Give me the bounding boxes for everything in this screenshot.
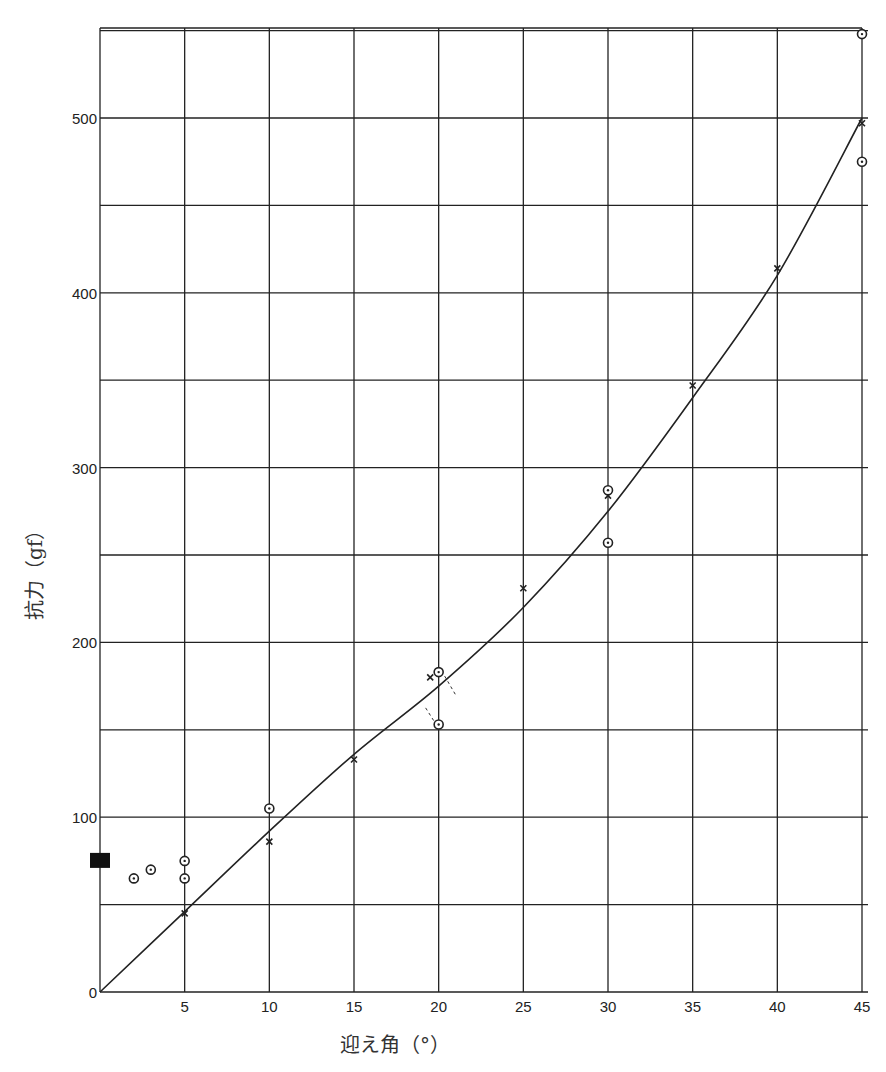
y-tick-label: 300 <box>72 460 97 477</box>
x-tick-label: 30 <box>600 998 617 1015</box>
x-tick-label: 35 <box>684 998 701 1015</box>
circle-marker-dot <box>437 671 439 673</box>
circle-marker-dot <box>268 807 270 809</box>
y-tick-label: 200 <box>72 634 97 651</box>
grid <box>100 28 868 992</box>
x-tick-label: 5 <box>180 998 188 1015</box>
circle-marker-dot <box>437 723 439 725</box>
x-tick-label: 45 <box>854 998 871 1015</box>
x-tick-label: 20 <box>430 998 447 1015</box>
circle-marker-dot <box>861 161 863 163</box>
x-tick-labels: 51015202530354045 <box>180 998 870 1015</box>
circle-marker-dot <box>607 489 609 491</box>
y-tick-label: 100 <box>72 809 97 826</box>
y-axis-label: 抗力（gf） <box>23 520 47 620</box>
circle-marker-dot <box>133 877 135 879</box>
circle-marker-dot <box>183 860 185 862</box>
circle-marker-dot <box>183 877 185 879</box>
x-marker <box>427 674 433 680</box>
y-tick-label: 500 <box>72 110 97 127</box>
circle-marker-dot <box>861 33 863 35</box>
x-tick-label: 40 <box>769 998 786 1015</box>
data-markers <box>90 30 867 917</box>
y-tick-label: 400 <box>72 285 97 302</box>
dashed-connector <box>425 707 434 720</box>
x-tick-label: 10 <box>261 998 278 1015</box>
circle-marker-dot <box>150 868 152 870</box>
filled-square-marker <box>90 853 110 868</box>
drag-vs-angle-chart: 51015202530354045 0100200300400500 迎え角（°… <box>0 0 886 1072</box>
x-tick-label: 25 <box>515 998 532 1015</box>
y-tick-label: 0 <box>89 984 97 1001</box>
circle-marker-dot <box>607 542 609 544</box>
x-tick-label: 15 <box>346 998 363 1015</box>
x-axis-label: 迎え角（°） <box>340 1033 450 1057</box>
